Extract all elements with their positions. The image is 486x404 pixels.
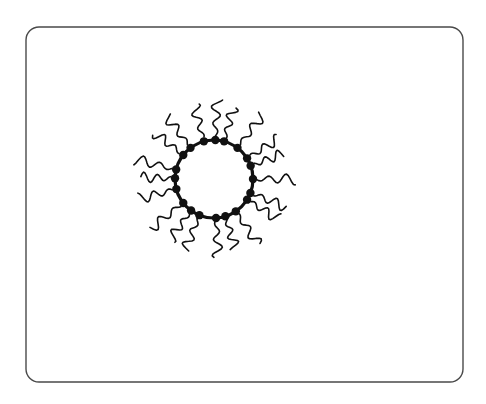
figure-canvas bbox=[0, 0, 486, 404]
surfactant-head-group bbox=[200, 137, 208, 145]
surfactant-head-group bbox=[212, 214, 220, 222]
surfactant-head-group bbox=[243, 195, 251, 203]
surfactant-head-group bbox=[233, 144, 241, 152]
surfactant-head-group bbox=[220, 137, 228, 145]
surfactant-head-group bbox=[186, 144, 194, 152]
surfactant-head-group bbox=[195, 211, 203, 219]
micelle-diagram-svg bbox=[0, 0, 486, 404]
surfactant-head-group bbox=[211, 136, 219, 144]
surfactant-head-group bbox=[187, 206, 195, 214]
surfactant-head-group bbox=[232, 207, 240, 215]
surfactant-head-group bbox=[172, 185, 180, 193]
surfactant-head-group bbox=[171, 174, 179, 182]
surfactant-head-group bbox=[246, 161, 254, 169]
surfactant-head-group bbox=[249, 175, 257, 183]
hydrophilic-core-ring bbox=[175, 140, 253, 218]
surfactant-head-group bbox=[243, 154, 251, 162]
surfactant-head-group bbox=[221, 212, 229, 220]
surfactant-head-group bbox=[179, 199, 187, 207]
surfactant-head-group bbox=[172, 165, 180, 173]
surfactant-head-group bbox=[179, 151, 187, 159]
